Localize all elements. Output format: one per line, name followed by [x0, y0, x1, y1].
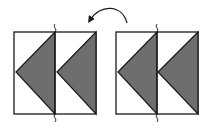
diagram-canvas: [0, 0, 209, 140]
diagram-svg: [0, 0, 209, 140]
cut-mark-bottom-left: [54, 114, 56, 122]
left-panel: [14, 24, 96, 122]
cut-mark-top-left: [54, 24, 56, 32]
right-panel: [116, 24, 198, 122]
curved-arrow-icon: [90, 8, 127, 23]
cut-mark-bottom-right: [156, 114, 158, 122]
cut-mark-top-right: [156, 24, 158, 32]
